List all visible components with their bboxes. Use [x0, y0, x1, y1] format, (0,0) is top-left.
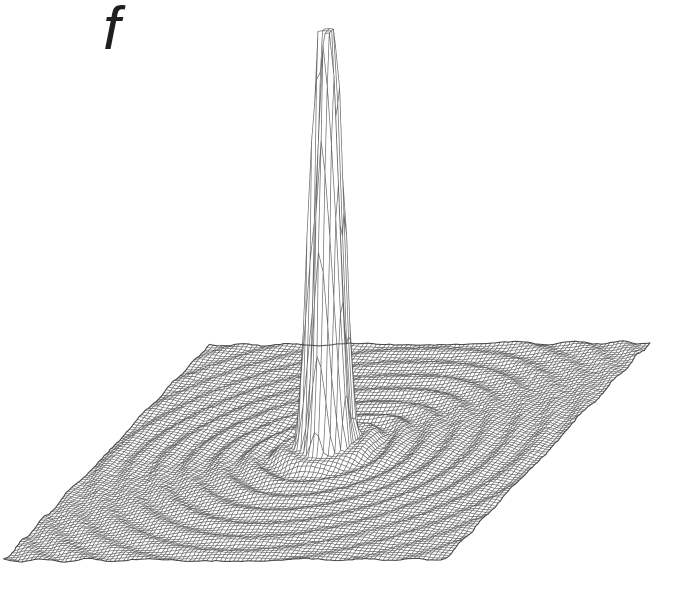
figure-label: f	[103, 0, 120, 62]
figure-page: f	[0, 0, 678, 596]
surface-plot-canvas	[0, 0, 678, 596]
